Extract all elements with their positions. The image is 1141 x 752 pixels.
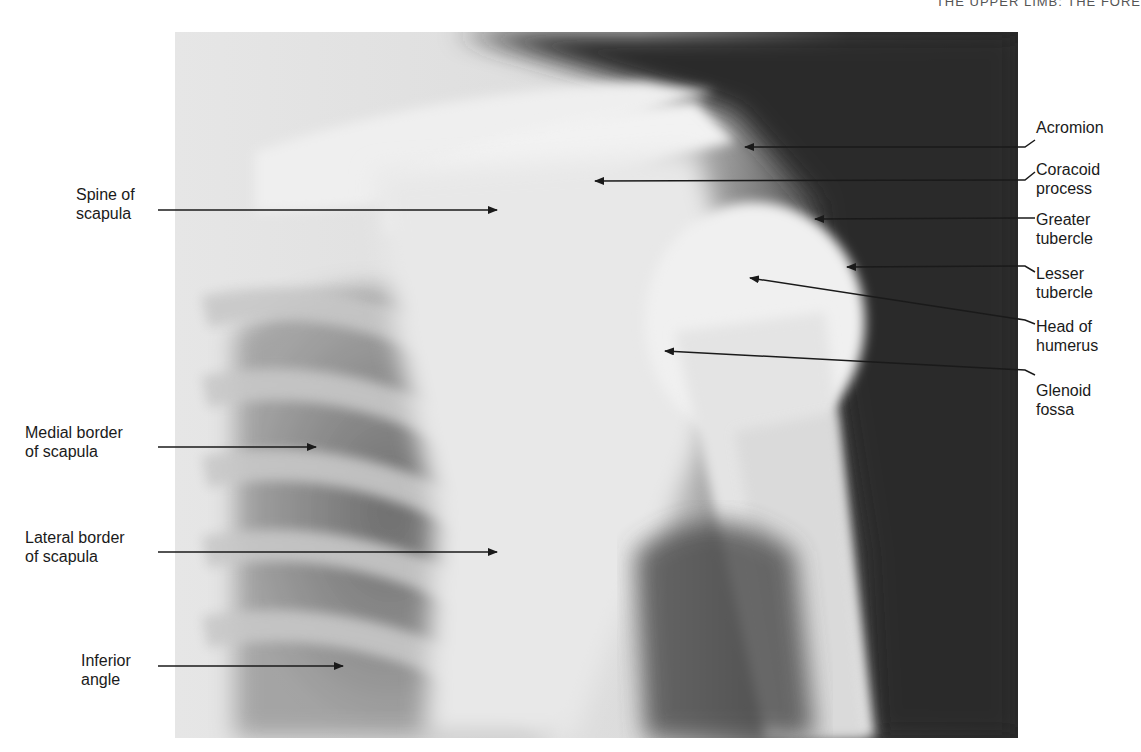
label-line: Glenoid — [1036, 381, 1091, 400]
label-line: scapula — [76, 204, 135, 223]
label-line: Lateral border — [25, 528, 125, 547]
label-line: tubercle — [1036, 283, 1093, 302]
label-line: of scapula — [25, 547, 125, 566]
label-coracoid-process: Coracoid process — [1036, 160, 1100, 198]
label-line: Spine of — [76, 185, 135, 204]
label-spine-of-scapula: Spine of scapula — [76, 185, 135, 223]
label-line: humerus — [1036, 336, 1098, 355]
label-acromion: Acromion — [1036, 118, 1104, 137]
label-lateral-border-of-scapula: Lateral border of scapula — [25, 528, 125, 566]
label-line: Medial border — [25, 423, 123, 442]
label-line: Inferior — [81, 651, 131, 670]
label-inferior-angle: Inferior angle — [81, 651, 131, 689]
running-head: THE UPPER LIMB: THE FORE — [936, 0, 1141, 9]
label-line: Coracoid — [1036, 160, 1100, 179]
label-head-of-humerus: Head of humerus — [1036, 317, 1098, 355]
label-line: angle — [81, 670, 131, 689]
label-line: process — [1036, 179, 1100, 198]
label-line: Head of — [1036, 317, 1098, 336]
label-glenoid-fossa: Glenoid fossa — [1036, 381, 1091, 419]
label-line: fossa — [1036, 400, 1091, 419]
xray-image — [175, 32, 1018, 738]
label-lesser-tubercle: Lesser tubercle — [1036, 264, 1093, 302]
label-line: tubercle — [1036, 229, 1093, 248]
label-greater-tubercle: Greater tubercle — [1036, 210, 1093, 248]
label-line: Lesser — [1036, 264, 1093, 283]
label-line: Greater — [1036, 210, 1093, 229]
label-line: Acromion — [1036, 118, 1104, 137]
label-medial-border-of-scapula: Medial border of scapula — [25, 423, 123, 461]
label-line: of scapula — [25, 442, 123, 461]
